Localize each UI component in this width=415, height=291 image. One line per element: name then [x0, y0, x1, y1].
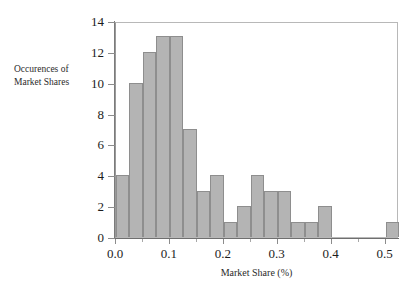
x-axis-tick [169, 239, 170, 244]
y-axis-tick-label: 6 [74, 137, 104, 153]
y-axis-tick [108, 145, 115, 146]
x-axis-minor-tick [358, 239, 359, 242]
x-axis-minor-tick [142, 239, 143, 242]
y-axis-tick-label: 10 [74, 76, 104, 92]
histogram-bars [116, 23, 397, 237]
histogram-bar [224, 222, 237, 237]
x-axis-title: Market Share (%) [115, 267, 398, 278]
y-axis-tick [108, 238, 115, 239]
y-axis-tick-label: 12 [74, 45, 104, 61]
plot-area [115, 22, 398, 238]
y-axis-tick-label: 0 [74, 230, 104, 246]
histogram-bar [116, 175, 129, 237]
y-axis-tick-label: 14 [74, 14, 104, 30]
x-axis-minor-tick [250, 239, 251, 242]
y-axis-tick-label: 4 [74, 168, 104, 184]
histogram-bar [210, 175, 223, 237]
x-axis-tick [331, 239, 332, 244]
x-axis-tick [385, 239, 386, 244]
x-axis-tick-label: 0.4 [311, 246, 351, 262]
histogram-bar [291, 222, 304, 237]
histogram-bar [183, 129, 196, 237]
y-axis-tick-label: 8 [74, 107, 104, 123]
histogram-bar [156, 36, 169, 237]
x-axis-tick-label: 0.2 [203, 246, 243, 262]
histogram-bar [143, 52, 156, 237]
histogram-bar [170, 36, 183, 237]
y-axis-title-line-1: Occurences of [14, 63, 106, 76]
y-axis-tick [108, 207, 115, 208]
histogram-bar [264, 191, 277, 237]
histogram-bar [386, 222, 399, 237]
x-axis-minor-tick [304, 239, 305, 242]
y-axis-tick [108, 84, 115, 85]
histogram-bar [197, 191, 210, 237]
histogram-bar [251, 175, 264, 237]
x-axis-tick [277, 239, 278, 244]
histogram-bar [278, 191, 291, 237]
x-axis-tick-label: 0.3 [257, 246, 297, 262]
x-axis-minor-tick [196, 239, 197, 242]
histogram-bar [129, 83, 142, 237]
x-axis-tick-label: 0.5 [365, 246, 405, 262]
y-axis-tick [108, 115, 115, 116]
x-axis-tick [115, 239, 116, 244]
x-axis-tick [223, 239, 224, 244]
x-axis-tick-label: 0.0 [95, 246, 135, 262]
histogram-bar [305, 222, 318, 237]
x-axis-line [114, 238, 399, 239]
chart-page: Occurences of Market Shares 02468101214 … [0, 0, 415, 291]
y-axis-tick [108, 53, 115, 54]
histogram-bar [237, 206, 250, 237]
x-axis-tick-label: 0.1 [149, 246, 189, 262]
y-axis-tick [108, 176, 115, 177]
y-axis-tick [108, 22, 115, 23]
y-axis-tick-label: 2 [74, 199, 104, 215]
histogram-bar [318, 206, 331, 237]
